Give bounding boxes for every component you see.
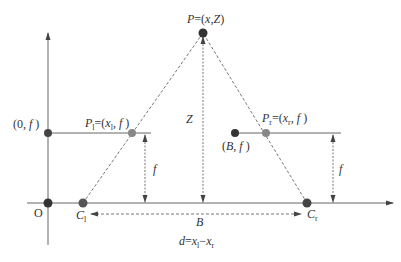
label-f-left: f bbox=[153, 162, 158, 176]
label-B: B bbox=[196, 215, 204, 229]
point-P-l bbox=[128, 129, 136, 137]
point-zero-f bbox=[44, 129, 52, 137]
label-zero-f: (0, f ) bbox=[13, 117, 39, 131]
point-origin bbox=[44, 199, 53, 208]
label-C-r: Cr bbox=[307, 207, 318, 223]
label-Z: Z bbox=[186, 112, 193, 126]
label-B-f: (B, f ) bbox=[222, 139, 250, 153]
point-P-r bbox=[262, 129, 270, 137]
stereo-diagram: P=(x,Z) (0, f ) Pl=(xl, f ) Pr=(xr, f ) … bbox=[0, 0, 401, 262]
label-P: P=(x,Z) bbox=[186, 12, 224, 26]
point-C-l bbox=[79, 199, 88, 208]
label-P-r: Pr=(xr, f ) bbox=[261, 111, 307, 127]
point-B-f bbox=[231, 129, 239, 137]
label-C-l: Cl bbox=[76, 208, 87, 224]
point-P bbox=[199, 29, 208, 38]
label-f-right: f bbox=[339, 162, 344, 176]
label-P-l: Pl=(xl, f ) bbox=[84, 116, 129, 132]
label-origin: O bbox=[34, 206, 43, 220]
label-disparity: d=xl−xr bbox=[179, 234, 214, 250]
